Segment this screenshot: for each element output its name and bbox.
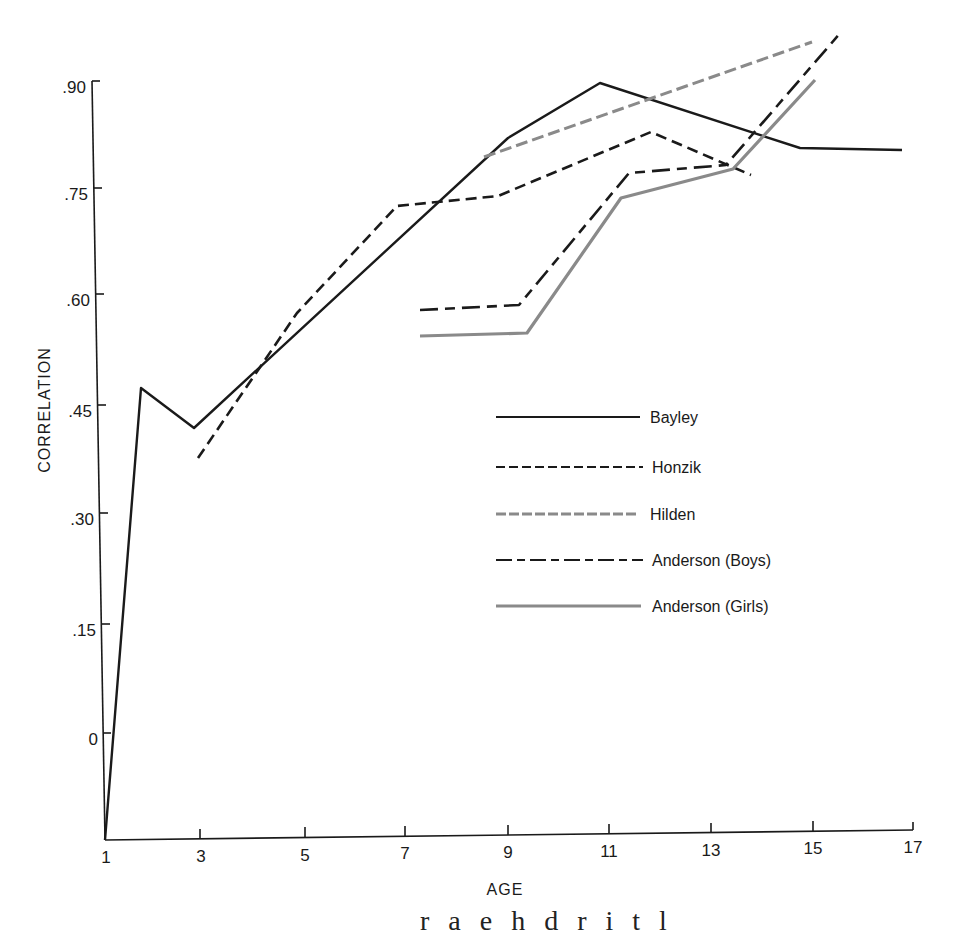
legend-item-anderson-girls: Anderson (Girls) [496, 598, 768, 615]
y-tick-label: .90 [62, 78, 86, 97]
y-tick-label: .15 [72, 621, 96, 640]
legend-label: Honzik [652, 459, 702, 476]
legend-label: Hilden [650, 506, 695, 523]
legend: Bayley Honzik Hilden Anderson (Boys) And… [496, 409, 771, 615]
legend-item-hilden: Hilden [496, 506, 695, 523]
x-axis-title: AGE [487, 881, 524, 898]
x-tick-label: 17 [904, 838, 923, 857]
x-tick-label: 13 [702, 841, 721, 860]
x-tick-label: 7 [400, 844, 409, 863]
x-tick-label: 1 [101, 848, 110, 867]
plot-series [105, 31, 902, 840]
y-tick-label: .75 [64, 185, 88, 204]
legend-label: Anderson (Girls) [652, 598, 768, 615]
y-axis: .90 .75 .60 .45 .30 .15 0 CORRELATION [36, 78, 111, 840]
legend-item-bayley: Bayley [496, 409, 698, 426]
y-tick-label: .60 [66, 291, 90, 310]
y-tick-label: 0 [89, 730, 98, 749]
caption-fragment: r a e h d r i t l [420, 905, 673, 934]
x-tick-label: 11 [600, 842, 618, 861]
x-tick-label: 3 [196, 847, 205, 866]
legend-item-honzik: Honzik [496, 459, 702, 476]
x-tick-label: 9 [503, 843, 512, 862]
x-tick-label: 5 [300, 846, 309, 865]
legend-label: Bayley [650, 409, 698, 426]
x-tick-label: 15 [804, 839, 823, 858]
legend-item-anderson-boys: Anderson (Boys) [496, 552, 771, 569]
y-tick-label: .30 [70, 510, 94, 529]
x-axis: 1 3 5 7 9 11 13 15 17 AGE [101, 821, 922, 898]
legend-label: Anderson (Boys) [652, 552, 771, 569]
series-hilden [484, 42, 812, 157]
series-bayley [105, 83, 902, 840]
y-axis-title: CORRELATION [36, 347, 53, 472]
y-tick-label: .45 [68, 402, 92, 421]
series-anderson-boys [420, 31, 842, 310]
series-anderson-girls [420, 80, 815, 336]
